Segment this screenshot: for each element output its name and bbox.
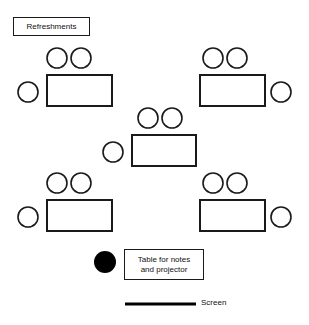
- center-table-chair-top-right: [162, 108, 182, 128]
- bottom-right-table-chair-top-left: [203, 173, 223, 193]
- room-layout-diagram: Refreshments Table for notes and project…: [0, 0, 309, 325]
- bottom-right-table-surface: [200, 200, 265, 231]
- top-right-table-surface: [200, 75, 265, 106]
- center-table: [103, 108, 196, 166]
- top-left-table-chair-top-left: [47, 48, 67, 68]
- top-left-table-chair-top-right: [71, 48, 91, 68]
- screen-label-text: Screen: [201, 298, 226, 307]
- top-right-table-chair-top-left: [203, 48, 223, 68]
- top-left-table-chair-side-left: [18, 82, 38, 102]
- notes-table-dot-layer: [94, 251, 116, 273]
- top-left-table: [18, 48, 112, 106]
- notes-table-label-line-1: Table for notes: [138, 255, 190, 265]
- top-right-table: [200, 48, 291, 106]
- bottom-left-table-chair-top-left: [47, 173, 67, 193]
- bottom-right-table: [200, 173, 291, 231]
- top-right-table-chair-side-right: [271, 82, 291, 102]
- center-table-chair-side-left: [103, 142, 123, 162]
- refreshments-label-text: Refreshments: [27, 22, 77, 32]
- bottom-right-table-chair-side-right: [271, 207, 291, 227]
- notes-table-label-line-2: and projector: [141, 265, 188, 275]
- center-table-surface: [132, 135, 196, 166]
- bottom-right-table-chair-top-right: [227, 173, 247, 193]
- top-left-table-surface: [47, 75, 112, 106]
- table-groups-layer: [18, 48, 291, 231]
- notes-table-dot: [94, 251, 116, 273]
- top-right-table-chair-top-right: [227, 48, 247, 68]
- screen-label: Screen: [201, 298, 226, 307]
- center-table-chair-top-left: [138, 108, 158, 128]
- bottom-left-table: [18, 173, 112, 231]
- notes-table-label-box: Table for notes and projector: [124, 249, 204, 280]
- bottom-left-table-chair-top-right: [71, 173, 91, 193]
- bottom-left-table-surface: [47, 200, 112, 231]
- refreshments-label-box: Refreshments: [13, 17, 90, 36]
- bottom-left-table-chair-side-left: [18, 207, 38, 227]
